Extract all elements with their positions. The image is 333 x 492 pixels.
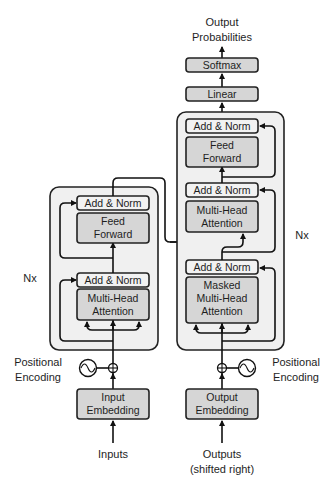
decoder-attention-line1: Multi-Head bbox=[197, 204, 248, 216]
decoder-add-norm-bottom-label: Add & Norm bbox=[193, 261, 250, 273]
outputs-label-line2: (shifted right) bbox=[190, 463, 254, 475]
inputs-label: Inputs bbox=[98, 448, 128, 460]
encoder-pe-line1: Positional bbox=[14, 356, 62, 368]
decoder-masked-line2: Multi-Head bbox=[197, 292, 248, 304]
encoder-add-norm-top-label: Add & Norm bbox=[84, 197, 141, 209]
decoder-masked-line3: Attention bbox=[201, 305, 243, 317]
decoder-add-norm-middle-label: Add & Norm bbox=[193, 184, 250, 196]
encoder-add-norm-bottom-label: Add & Norm bbox=[84, 274, 141, 286]
output-embedding-line2: Embedding bbox=[195, 404, 248, 416]
output-embedding-line1: Output bbox=[206, 391, 238, 403]
linear-label: Linear bbox=[207, 88, 237, 100]
transformer-diagram: Output Probabilities Softmax Linear Nx M… bbox=[0, 0, 333, 492]
encoder-ff-line2: Forward bbox=[94, 228, 133, 240]
input-embedding-line2: Embedding bbox=[86, 404, 139, 416]
input-embedding-line1: Input bbox=[101, 391, 124, 403]
output-label-line2: Probabilities bbox=[192, 31, 252, 43]
encoder-nx-label: Nx bbox=[23, 272, 37, 284]
decoder-masked-line1: Masked bbox=[204, 279, 241, 291]
encoder-pe-line2: Encoding bbox=[15, 371, 61, 383]
decoder-add-norm-top-label: Add & Norm bbox=[193, 120, 250, 132]
encoder-attention-line2: Attention bbox=[92, 305, 134, 317]
decoder-pe-line2: Encoding bbox=[273, 371, 319, 383]
decoder-pe-line1: Positional bbox=[272, 356, 320, 368]
encoder-ff-line1: Feed bbox=[101, 215, 125, 227]
decoder-ff-line2: Forward bbox=[203, 152, 242, 164]
softmax-label: Softmax bbox=[203, 59, 242, 71]
outputs-label-line1: Outputs bbox=[203, 448, 242, 460]
encoder-attention-line1: Multi-Head bbox=[88, 292, 139, 304]
decoder-nx-label: Nx bbox=[295, 229, 309, 241]
output-label-line1: Output bbox=[205, 16, 238, 28]
decoder-ff-line1: Feed bbox=[210, 139, 234, 151]
encoder-stack bbox=[50, 187, 158, 350]
decoder-attention-line2: Attention bbox=[201, 217, 243, 229]
